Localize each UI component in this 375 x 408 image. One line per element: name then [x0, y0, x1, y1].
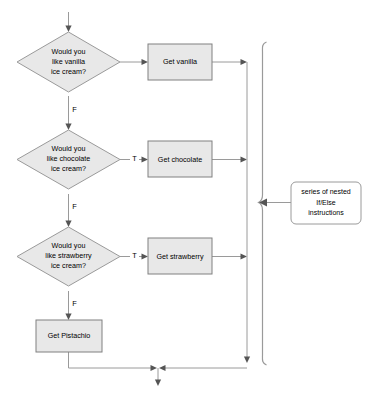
arrowhead-strawberry-false	[65, 314, 71, 321]
arrowhead-to-strawberry-box	[142, 254, 149, 260]
decision-chocolate-line2: like chocolate	[47, 154, 91, 163]
label-chocolate-false: F	[72, 202, 77, 211]
decision-strawberry-line3: ice cream?	[51, 261, 86, 270]
arrowhead-collector-bottom	[244, 357, 250, 364]
arrowhead-vanilla-collector	[241, 59, 248, 65]
process-get-pistachio-label: Get Pistachio	[48, 331, 91, 340]
process-get-pistachio[interactable]: Get Pistachio	[36, 320, 102, 352]
arrowhead-vanilla-false	[65, 124, 71, 131]
decision-vanilla[interactable]: Would you like vanilla ice cream?	[17, 32, 120, 92]
decision-strawberry[interactable]: Would you like strawberry ice cream?	[17, 227, 120, 286]
process-get-vanilla[interactable]: Get vanilla	[148, 44, 212, 80]
arrowhead-note-to-brace	[259, 199, 267, 207]
arrowhead-chocolate-collector	[241, 157, 248, 163]
arrowhead-entry	[65, 26, 71, 33]
process-get-chocolate-label: Get chocolate	[158, 155, 202, 164]
process-get-strawberry[interactable]: Get strawberry	[148, 238, 212, 274]
decision-strawberry-line1: Would you	[52, 241, 86, 250]
decision-chocolate[interactable]: Would you like chocolate ice cream?	[17, 130, 120, 189]
label-vanilla-false: F	[72, 105, 77, 114]
arrowhead-merge-left	[151, 365, 158, 371]
flowchart-canvas: Would you like vanilla ice cream? Would …	[0, 0, 375, 408]
annotation-line1: series of nested	[301, 188, 351, 195]
annotation-nested-ifelse[interactable]: series of nested If/Else instructions	[291, 182, 361, 224]
arrowhead-exit	[155, 380, 161, 387]
arrowhead-to-chocolate-box	[142, 157, 149, 163]
decision-strawberry-line2: like strawberry	[45, 251, 92, 260]
process-get-vanilla-label: Get vanilla	[163, 57, 197, 66]
decision-chocolate-line1: Would you	[52, 144, 86, 153]
arrowhead-to-vanilla-box	[142, 59, 149, 65]
process-get-chocolate[interactable]: Get chocolate	[148, 141, 212, 177]
decision-vanilla-line3: ice cream?	[51, 67, 86, 76]
label-strawberry-true: T	[132, 251, 137, 260]
arrowhead-strawberry-collector	[241, 254, 248, 260]
label-chocolate-true: T	[132, 154, 137, 163]
annotation-line3: instructions	[308, 209, 344, 216]
label-strawberry-false: F	[72, 299, 77, 308]
process-get-strawberry-label: Get strawberry	[156, 252, 204, 261]
arrowhead-chocolate-false	[65, 221, 71, 228]
decision-vanilla-line1: Would you	[52, 47, 86, 56]
decision-vanilla-line2: like vanilla	[52, 57, 85, 66]
arrowhead-merge-right	[159, 365, 166, 371]
decision-chocolate-line3: ice cream?	[51, 164, 86, 173]
annotation-line2: If/Else	[316, 199, 336, 206]
